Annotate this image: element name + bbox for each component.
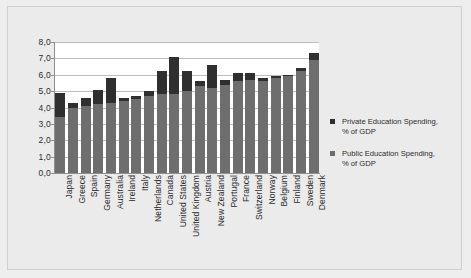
y-axis-tick-label: 1,0 — [11, 153, 51, 161]
y-axis-tick-label: 4,0 — [11, 104, 51, 112]
bar-segment-private — [169, 57, 179, 95]
x-axis-category-label: Portugal — [229, 175, 239, 207]
bar-segment-private — [81, 98, 91, 106]
bar-column[interactable] — [131, 42, 141, 173]
bar-segment-private — [309, 53, 319, 60]
bar-segment-public — [68, 108, 78, 174]
bar-segment-private — [271, 76, 281, 78]
bar-segment-private — [296, 68, 306, 71]
x-axis-category-label: Spain — [89, 175, 99, 197]
bar-segment-private — [119, 98, 129, 101]
chart-frame: 8,07,06,05,04,03,02,01,00,0 JapanGreeceS… — [7, 6, 462, 270]
bar-segment-public — [106, 103, 116, 173]
legend-swatch-public-icon — [330, 151, 335, 156]
bar-segment-private — [207, 65, 217, 88]
bar-segment-public — [296, 71, 306, 173]
bar-column[interactable] — [258, 42, 268, 173]
x-axis-category-label: Norway — [267, 175, 277, 204]
legend-swatch-private-icon — [330, 119, 335, 124]
x-axis-category-label: Ireland — [127, 175, 137, 202]
bar-column[interactable] — [144, 42, 154, 173]
bar-column[interactable] — [296, 42, 306, 173]
bar-segment-public — [207, 88, 217, 173]
x-axis-category-label: Germany — [102, 175, 112, 211]
y-axis-tick-label: 7,0 — [11, 54, 51, 62]
bar-segment-private — [157, 71, 167, 94]
legend-label-public-line2: % of GDP — [342, 159, 462, 169]
bar-segment-private — [195, 81, 205, 86]
bar-segment-public — [55, 117, 65, 173]
bar-segment-public — [81, 106, 91, 173]
x-axis-category-label: Netherlands — [153, 175, 163, 222]
bar-column[interactable] — [81, 42, 91, 173]
bar-segment-public — [182, 91, 192, 173]
bar-column[interactable] — [195, 42, 205, 173]
bar-column[interactable] — [207, 42, 217, 173]
x-axis-category-label: Belgium — [279, 175, 289, 206]
bar-column[interactable] — [93, 42, 103, 173]
x-axis-category-label: Austria — [203, 175, 213, 202]
y-axis-tick-label: 2,0 — [11, 136, 51, 144]
legend-label-private: Private Education Spending, % of GDP — [342, 117, 462, 136]
bar-column[interactable] — [68, 42, 78, 173]
bar-column[interactable] — [106, 42, 116, 173]
x-axis-category-labels: JapanGreeceSpainGermanyAustraliaIrelandI… — [54, 175, 320, 255]
bar-column[interactable] — [169, 42, 179, 173]
x-axis-category-label: New Zealand — [216, 175, 226, 226]
bar-segment-public — [157, 94, 167, 173]
bar-column[interactable] — [233, 42, 243, 173]
x-axis-category-label: United States — [178, 175, 188, 227]
legend-label-public-line1: Public Education Spending, — [342, 149, 462, 159]
x-axis-category-label: United Kingdom — [191, 175, 201, 237]
bar-segment-public — [220, 85, 230, 173]
bar-column[interactable] — [309, 42, 319, 173]
bar-segment-private — [55, 93, 65, 118]
bar-segment-private — [233, 73, 243, 81]
bar-segment-public — [245, 80, 255, 173]
x-axis-category-label: Sweden — [305, 175, 315, 206]
y-axis-tick-labels: 8,07,06,05,04,03,02,01,00,0 — [8, 7, 51, 278]
y-axis-tick-label: 5,0 — [11, 87, 51, 95]
bar-segment-public — [271, 78, 281, 173]
bar-segment-public — [144, 96, 154, 173]
bar-column[interactable] — [119, 42, 129, 173]
x-axis-category-label: Finland — [292, 175, 302, 204]
x-axis-category-label: Greece — [77, 175, 87, 203]
bar-column[interactable] — [182, 42, 192, 173]
bar-column[interactable] — [283, 42, 293, 173]
bar-segment-private — [220, 80, 230, 85]
y-axis-tick-label: 0,0 — [11, 169, 51, 177]
legend-item[interactable]: Private Education Spending, % of GDP — [330, 117, 462, 136]
x-axis-category-label: Italy — [140, 175, 150, 191]
bar-column[interactable] — [245, 42, 255, 173]
bar-segment-public — [233, 81, 243, 173]
bar-segment-private — [283, 75, 293, 77]
x-axis-category-label: France — [241, 175, 251, 202]
bar-segment-public — [283, 76, 293, 173]
bar-segment-public — [131, 99, 141, 173]
y-axis-tick-label: 8,0 — [11, 38, 51, 46]
bars-group — [54, 42, 320, 173]
legend-label-public: Public Education Spending, % of GDP — [342, 149, 462, 168]
bar-segment-public — [119, 101, 129, 173]
bar-segment-private — [182, 71, 192, 91]
legend-item[interactable]: Public Education Spending, % of GDP — [330, 149, 462, 168]
bar-column[interactable] — [55, 42, 65, 173]
bar-column[interactable] — [271, 42, 281, 173]
bar-segment-public — [258, 81, 268, 173]
bar-segment-private — [93, 90, 103, 105]
x-axis-category-label: Canada — [165, 175, 175, 205]
x-axis-category-label: Switzerland — [254, 175, 264, 220]
bar-column[interactable] — [220, 42, 230, 173]
x-axis-category-label: Japan — [64, 175, 74, 199]
y-axis-tick-mark — [51, 173, 54, 174]
x-axis-category-label: Australia — [115, 175, 125, 209]
y-axis-tick-label: 6,0 — [11, 71, 51, 79]
legend-label-private-line2: % of GDP — [342, 127, 462, 137]
bar-segment-public — [93, 104, 103, 173]
bar-column[interactable] — [157, 42, 167, 173]
bar-segment-private — [258, 78, 268, 81]
chart-figure: 8,07,06,05,04,03,02,01,00,0 JapanGreeceS… — [0, 0, 471, 278]
bar-segment-private — [245, 73, 255, 80]
bar-segment-private — [106, 78, 116, 103]
